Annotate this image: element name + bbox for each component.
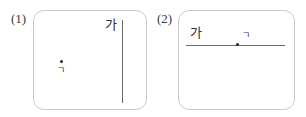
geometry-figure: (1) 가 ㄱ (2) 가 ㄱ [0,0,306,117]
point-label-g-panel2: ㄱ [242,31,250,40]
panel-index-1: (1) [11,11,26,27]
panel-index-2: (2) [157,11,172,27]
point-g-panel1 [60,60,63,63]
line-label-ga-panel1: 가 [105,18,117,31]
vertical-line-ga [122,20,123,103]
line-label-ga-panel2: 가 [190,26,202,39]
point-g-panel2 [236,43,239,46]
point-label-g-panel1: ㄱ [57,66,65,75]
panel-box-1 [33,10,147,110]
